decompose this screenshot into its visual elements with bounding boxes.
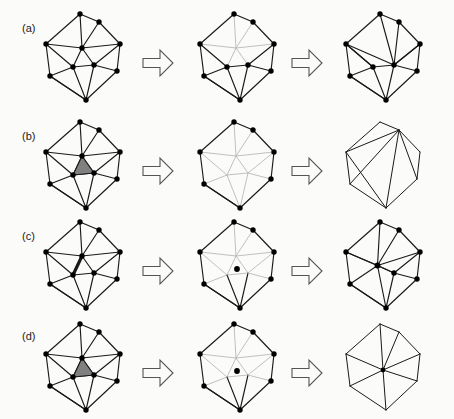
stage-b-after bbox=[346, 122, 420, 208]
mesh-edge bbox=[50, 377, 73, 386]
mesh-edge bbox=[240, 71, 271, 100]
stage-b-before bbox=[43, 119, 122, 210]
mesh-edge bbox=[200, 14, 234, 44]
mesh-vertex-topRight bbox=[96, 19, 101, 24]
mesh-edge bbox=[236, 130, 253, 156]
mesh-edge bbox=[227, 273, 248, 275]
boundary-edge bbox=[380, 324, 399, 332]
mesh-edge bbox=[227, 256, 236, 275]
mesh-edge bbox=[417, 252, 420, 279]
mesh-edge bbox=[46, 354, 73, 377]
mesh-edge bbox=[200, 152, 236, 156]
mesh-edge bbox=[227, 375, 248, 377]
mesh-edge bbox=[227, 65, 248, 67]
stage-d-during bbox=[197, 321, 276, 412]
mesh-edge bbox=[50, 284, 86, 308]
stage-a-during bbox=[197, 11, 276, 102]
mesh-edge bbox=[200, 252, 204, 284]
mesh-edge bbox=[350, 76, 386, 100]
mesh-vertex-bottomRight bbox=[268, 176, 273, 181]
mesh-edge bbox=[350, 284, 386, 308]
mesh-vertex-midRight bbox=[245, 62, 250, 67]
mesh-vertex-right bbox=[271, 351, 276, 356]
mesh-edge bbox=[200, 354, 227, 377]
mesh-edge bbox=[399, 22, 420, 44]
mesh-edge bbox=[80, 222, 82, 256]
mesh-edge bbox=[86, 381, 117, 410]
mesh-edge bbox=[80, 324, 82, 358]
fan-edge bbox=[346, 152, 386, 208]
mesh-edge bbox=[394, 252, 420, 273]
boundary-edge bbox=[417, 152, 420, 179]
mesh-edge bbox=[94, 173, 117, 179]
mesh-edge bbox=[248, 252, 274, 273]
mesh-edge bbox=[99, 22, 120, 44]
mesh-edge bbox=[346, 44, 350, 76]
mesh-edge bbox=[80, 122, 82, 156]
boundary-edge bbox=[346, 122, 380, 152]
mesh-edge bbox=[82, 252, 120, 256]
mesh-edge bbox=[227, 156, 236, 175]
mesh-vertex-right bbox=[271, 249, 276, 254]
mesh-edge bbox=[253, 230, 274, 252]
mesh-edge bbox=[46, 252, 73, 275]
mesh-vertex-bottomRight bbox=[114, 378, 119, 383]
mesh-edge bbox=[200, 324, 234, 354]
mesh-edge bbox=[236, 22, 253, 48]
mesh-edge bbox=[200, 44, 204, 76]
mesh-vertex-top bbox=[77, 119, 82, 124]
retriangulation-edge bbox=[394, 22, 399, 65]
mesh-edge bbox=[82, 130, 99, 156]
mesh-edge bbox=[200, 354, 204, 386]
mesh-edge bbox=[380, 222, 399, 230]
mesh-edge bbox=[46, 152, 82, 156]
stage-c-before bbox=[43, 219, 122, 310]
boundary-edge bbox=[350, 184, 386, 208]
mesh-edge bbox=[240, 381, 271, 410]
mesh-vertex-bottomLeft bbox=[347, 73, 352, 78]
mesh-edge bbox=[227, 358, 236, 377]
mesh-edge bbox=[50, 184, 86, 208]
arrow-b-2 bbox=[292, 158, 322, 184]
mesh-vertex-midLeft bbox=[70, 172, 75, 177]
mesh-edge bbox=[200, 44, 227, 67]
mesh-edge bbox=[204, 386, 240, 410]
retriangulation-edge bbox=[394, 44, 420, 65]
figure-row-d: (d) bbox=[22, 321, 420, 412]
mesh-edge bbox=[117, 44, 120, 71]
mesh-edge bbox=[253, 22, 274, 44]
mesh-edge bbox=[46, 14, 80, 44]
mesh-vertex-top bbox=[77, 11, 82, 16]
mesh-edge bbox=[253, 332, 274, 354]
row-label-a: (a) bbox=[22, 22, 35, 34]
mesh-edge bbox=[204, 67, 227, 76]
mesh-edge bbox=[200, 354, 236, 358]
mesh-edge bbox=[82, 230, 99, 256]
mesh-edge bbox=[46, 354, 82, 358]
mesh-edge bbox=[46, 324, 80, 354]
retriangulation-edge bbox=[380, 14, 394, 65]
mesh-vertex-center bbox=[79, 253, 84, 258]
mesh-edge bbox=[234, 324, 236, 358]
mesh-vertex-midLeft bbox=[70, 272, 75, 277]
figure-row-b: (b) bbox=[22, 119, 420, 210]
arrow-a-1 bbox=[143, 50, 173, 76]
mesh-edge bbox=[234, 222, 253, 230]
mesh-vertex-midLeft bbox=[224, 64, 229, 69]
mesh-vertex-top bbox=[231, 11, 236, 16]
fan-edge bbox=[383, 370, 417, 381]
mesh-edge bbox=[234, 122, 253, 130]
mesh-vertex-bottomLeft bbox=[201, 73, 206, 78]
mesh-edge bbox=[73, 256, 82, 275]
mesh-edge bbox=[50, 386, 86, 410]
collapsed-vertex bbox=[381, 368, 386, 373]
mesh-vertex-top bbox=[77, 219, 82, 224]
arrow-right-icon bbox=[292, 158, 322, 184]
mesh-vertex-bottomRight bbox=[414, 276, 419, 281]
mesh-vertex-midRight bbox=[391, 62, 396, 67]
mesh-edge bbox=[86, 279, 117, 308]
mesh-edge bbox=[82, 44, 120, 48]
mesh-edge bbox=[234, 222, 236, 256]
stage-a-before bbox=[43, 11, 122, 102]
mesh-vertex-bottomLeft bbox=[201, 383, 206, 388]
